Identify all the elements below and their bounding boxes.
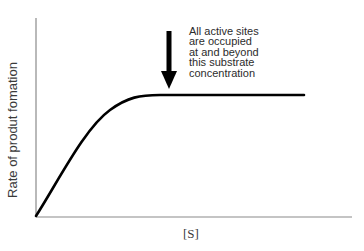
rate-curve [36, 95, 304, 216]
annotation-line: concentration [189, 68, 309, 78]
y-axis-label: Rate of produt fomation [5, 62, 20, 198]
down-arrow-icon [161, 31, 177, 89]
saturation-curve-chart [0, 0, 364, 251]
saturation-annotation: All active sites are occupied at and bey… [189, 26, 309, 78]
x-axis-label: [S] [183, 226, 199, 242]
